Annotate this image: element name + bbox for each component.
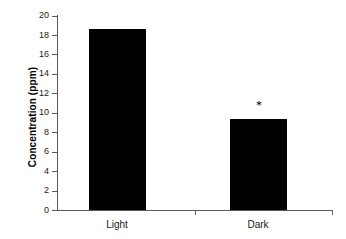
bar-chart-figure: Concentration (ppm) 0 2 4 6 8 10 12 14 1…: [0, 0, 346, 239]
bar-dark: [230, 119, 287, 210]
y-tick-18: [52, 35, 57, 36]
y-tick-label-12: 12: [9, 89, 49, 98]
y-tick-label-6: 6: [9, 147, 49, 156]
y-tick-0: [52, 210, 57, 211]
y-tick-20: [52, 16, 57, 17]
y-tick-label-16: 16: [9, 50, 49, 59]
y-tick-12: [52, 93, 57, 94]
y-tick-label-0: 0: [9, 206, 49, 215]
y-tick-16: [52, 54, 57, 55]
y-tick-4: [52, 171, 57, 172]
x-category-label-dark: Dark: [213, 219, 303, 230]
y-tick-label-20: 20: [9, 11, 49, 20]
y-tick-label-4: 4: [9, 167, 49, 176]
bar-light: [89, 29, 146, 210]
y-tick-label-18: 18: [9, 31, 49, 40]
y-tick-10: [52, 113, 57, 114]
y-tick-14: [52, 74, 57, 75]
y-tick-label-10: 10: [9, 108, 49, 117]
y-tick-6: [52, 152, 57, 153]
x-tick-right: [332, 211, 333, 215]
y-tick-label-2: 2: [9, 186, 49, 195]
y-tick-2: [52, 191, 57, 192]
y-tick-label-8: 8: [9, 128, 49, 137]
y-axis-line: [57, 15, 58, 211]
y-tick-label-14: 14: [9, 69, 49, 78]
x-tick-mid: [195, 211, 196, 215]
significance-asterisk: *: [249, 99, 269, 111]
x-category-label-light: Light: [72, 219, 162, 230]
y-tick-8: [52, 132, 57, 133]
